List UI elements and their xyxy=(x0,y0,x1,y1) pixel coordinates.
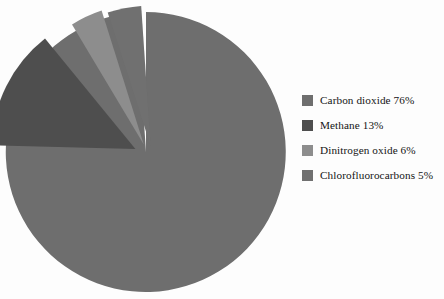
legend-label-methane: Methane 13% xyxy=(320,119,384,132)
legend-swatch-icon-carbon-dioxide xyxy=(302,95,313,106)
legend-label-chlorofluorocarbons: Chlorofluorocarbons 5% xyxy=(320,169,433,182)
legend-item-dinitrogen-oxide[interactable]: Dinitrogen oxide 6% xyxy=(302,138,444,163)
legend-label-dinitrogen-oxide: Dinitrogen oxide 6% xyxy=(320,144,416,157)
legend-item-methane[interactable]: Methane 13% xyxy=(302,113,444,138)
legend-swatch-icon-chlorofluorocarbons xyxy=(302,170,313,181)
chart-legend: Carbon dioxide 76% Methane 13% Dinitroge… xyxy=(302,88,444,188)
legend-label-carbon-dioxide: Carbon dioxide 76% xyxy=(320,94,414,107)
legend-swatch-icon-dinitrogen-oxide xyxy=(302,145,313,156)
legend-item-chlorofluorocarbons[interactable]: Chlorofluorocarbons 5% xyxy=(302,163,444,188)
chart-page: Carbon dioxide 76% Methane 13% Dinitroge… xyxy=(0,0,444,299)
legend-swatch-icon-methane xyxy=(302,120,313,131)
pie-chart xyxy=(0,0,292,299)
pie-chart-svg xyxy=(0,0,292,299)
legend-item-carbon-dioxide[interactable]: Carbon dioxide 76% xyxy=(302,88,444,113)
